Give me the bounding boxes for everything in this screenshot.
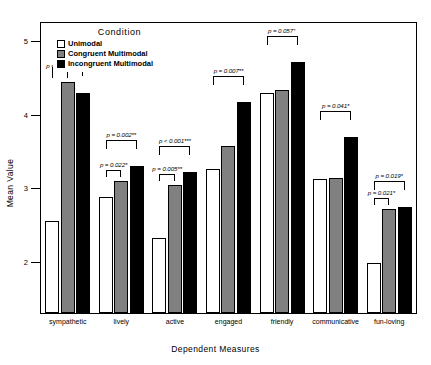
bar-fun-loving-incong <box>398 207 412 313</box>
p-value-label: p = 0.019* <box>363 172 415 179</box>
bar-lively-cong <box>114 181 128 313</box>
y-tick-label: 3 <box>8 184 28 193</box>
x-tick-label-lively: lively <box>95 318 149 325</box>
legend: Condition UnimodalCongruent MultimodalIn… <box>53 24 186 72</box>
x-tick-label-communicative: communicative <box>309 318 363 325</box>
y-tick <box>31 262 40 263</box>
legend-item-congruent-multimodal: Congruent Multimodal <box>57 49 182 58</box>
bar-friendly-cong <box>275 90 289 313</box>
bar-group <box>309 23 363 313</box>
significance-bracket <box>106 140 137 149</box>
bar-fun-loving-cong <box>382 209 396 313</box>
x-tick-label-fun-loving: fun-loving <box>362 318 416 325</box>
legend-items: UnimodalCongruent MultimodalIncongruent … <box>57 39 182 68</box>
p-value-label: p = 0.057⁺ <box>256 27 308 34</box>
p-value-label: p = 0.005** <box>141 165 193 172</box>
bar-communicative-uni <box>313 179 327 313</box>
chart-root: Mean Value 2345 p = 0.056⁺p = 0.033*p = … <box>0 0 431 365</box>
significance-bracket <box>159 146 190 155</box>
y-tick-label: 2 <box>8 258 28 267</box>
y-tick-label: 4 <box>8 111 28 120</box>
legend-item-label: Congruent Multimodal <box>68 49 148 58</box>
y-axis-title: Mean Value <box>2 0 18 365</box>
y-tick <box>31 188 40 189</box>
legend-swatch-icon <box>57 50 65 58</box>
legend-swatch-icon <box>57 40 65 48</box>
p-value-label: p = 0.007** <box>203 67 255 74</box>
legend-item-incongruent-multimodal: Incongruent Multimodal <box>57 59 182 68</box>
legend-swatch-icon <box>57 60 65 68</box>
bar-active-incong <box>183 172 197 313</box>
bar-sympathetic-incong <box>76 93 90 313</box>
bar-communicative-incong <box>344 137 358 313</box>
significance-bracket <box>267 36 298 45</box>
bar-active-cong <box>168 185 182 313</box>
bar-group <box>255 23 309 313</box>
bar-sympathetic-uni <box>45 221 59 313</box>
bar-active-uni <box>152 238 166 313</box>
bar-lively-uni <box>99 197 113 313</box>
y-tick <box>31 41 40 42</box>
legend-title: Condition <box>57 27 182 37</box>
significance-bracket <box>374 198 390 205</box>
p-value-label: p = 0.002** <box>95 131 147 138</box>
legend-item-unimodal: Unimodal <box>57 39 182 48</box>
p-value-label: p = 0.021* <box>355 189 407 196</box>
x-tick-label-engaged: engaged <box>202 318 256 325</box>
significance-bracket <box>159 174 175 181</box>
legend-item-label: Unimodal <box>68 39 102 48</box>
bar-sympathetic-cong <box>61 82 75 313</box>
x-axis-title: Dependent Measures <box>0 344 431 354</box>
bar-engaged-cong <box>221 146 235 313</box>
bar-engaged-incong <box>237 102 251 313</box>
significance-bracket <box>106 170 122 177</box>
legend-item-label: Incongruent Multimodal <box>68 59 153 68</box>
significance-bracket <box>213 76 244 85</box>
p-value-label: p = 0.041* <box>310 102 362 109</box>
bar-lively-incong <box>130 166 144 313</box>
y-tick-label: 5 <box>8 37 28 46</box>
y-tick <box>31 115 40 116</box>
x-tick-label-friendly: friendly <box>255 318 309 325</box>
significance-bracket <box>320 111 351 120</box>
x-tick-label-sympathetic: sympathetic <box>41 318 95 325</box>
bar-friendly-uni <box>260 93 274 313</box>
bar-fun-loving-uni <box>367 263 381 313</box>
bar-friendly-incong <box>291 62 305 313</box>
bar-communicative-cong <box>329 178 343 313</box>
bar-group <box>362 23 416 313</box>
p-value-label: p = 0.022* <box>88 161 140 168</box>
x-tick-label-active: active <box>148 318 202 325</box>
bar-engaged-uni <box>206 169 220 313</box>
p-value-label: p < 0.001*** <box>149 137 201 144</box>
